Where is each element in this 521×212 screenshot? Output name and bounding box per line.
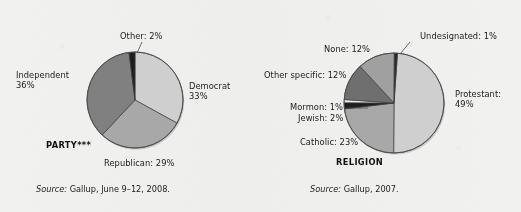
- religion-source-prefix: Source:: [310, 184, 341, 194]
- religion-label-protestant: Protestant: 49%: [455, 89, 521, 110]
- religion-source-note: Source: Gallup, 2007.: [310, 184, 399, 194]
- religion-label-jewish: Jewish: 2%: [298, 113, 343, 123]
- religion-undesignated-leader: [400, 42, 410, 54]
- religion-label-other-specific: Other specific: 12%: [264, 70, 346, 80]
- religion-label-none: None: 12%: [324, 44, 370, 54]
- pie-slice-protestant[interactable]: [394, 53, 444, 153]
- religion-label-protestant-name: Protestant:: [455, 89, 521, 99]
- religion-label-protestant-pct: 49%: [455, 99, 521, 109]
- religion-chart-title: RELIGION: [336, 157, 383, 167]
- religion-source-text: Gallup, 2007.: [344, 184, 399, 194]
- religion-label-mormon: Mormon: 1%: [290, 102, 343, 112]
- religion-chart-panel: Undesignated: 1% None: 12% Other specifi…: [260, 0, 521, 212]
- religion-label-catholic: Catholic: 23%: [300, 137, 358, 147]
- religion-label-undesignated: Undesignated: 1%: [420, 31, 497, 41]
